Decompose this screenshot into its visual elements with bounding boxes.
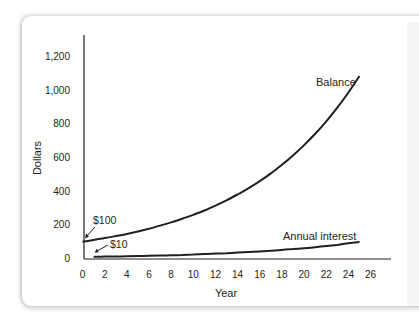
x-tick-label: 16 (254, 269, 266, 280)
y-tick-label: 1,000 (45, 85, 70, 96)
y-tick-label: 600 (53, 152, 70, 163)
x-tick-label: 4 (124, 269, 130, 280)
y-axis-title: Dollars (31, 140, 43, 175)
balance-line (83, 76, 360, 242)
x-tick-label: 26 (365, 269, 377, 280)
x-tick-label: 12 (210, 269, 222, 280)
x-tick-labels: 02468101214161820222426 (80, 269, 377, 280)
x-tick-label: 24 (343, 269, 355, 280)
start-balance-annotation: $100 (93, 214, 117, 226)
arrow-icon (95, 245, 109, 253)
x-tick-label: 10 (188, 269, 200, 280)
start-interest-annotation: $10 (110, 238, 128, 250)
annual-interest-label: Annual interest (283, 230, 356, 242)
figure-stage: 02004006008001,0001,200 0246810121416182… (0, 0, 419, 325)
x-tick-label: 14 (232, 269, 244, 280)
annual-interest-line (94, 242, 360, 257)
x-axis-title: Year (215, 287, 238, 299)
arrow-icon (85, 227, 95, 239)
y-tick-label: 800 (53, 118, 70, 129)
x-tick-label: 2 (102, 269, 108, 280)
y-tick-label: 1,200 (45, 51, 70, 62)
y-tick-label: 200 (53, 219, 70, 230)
x-tick-label: 22 (321, 269, 333, 280)
x-tick-label: 0 (80, 269, 86, 280)
x-tick-label: 6 (146, 269, 152, 280)
x-tick-label: 8 (168, 269, 174, 280)
x-tick-label: 18 (276, 269, 288, 280)
y-tick-label: 400 (53, 186, 70, 197)
x-tick-label: 20 (299, 269, 311, 280)
balance-label: Balance (316, 76, 356, 88)
y-tick-label: 0 (64, 253, 70, 264)
y-tick-labels: 02004006008001,0001,200 (45, 51, 70, 264)
compound-interest-chart: 02004006008001,0001,200 0246810121416182… (0, 0, 419, 325)
